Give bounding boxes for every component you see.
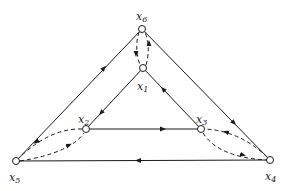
edge-x6-x4 bbox=[142, 29, 270, 160]
edge-x4-x3-dashed bbox=[205, 129, 267, 157]
node-x4 bbox=[267, 157, 274, 164]
edge-x3-x1 bbox=[143, 68, 201, 129]
node-x6 bbox=[139, 26, 146, 33]
edge-x4-x5 bbox=[16, 160, 270, 161]
label-x3: x3 bbox=[196, 113, 207, 127]
label-x2: x2 bbox=[78, 113, 89, 127]
edge-x1-x6-dashed bbox=[145, 32, 149, 65]
label-x6: x6 bbox=[136, 10, 147, 24]
edge-x6-x1-dashed bbox=[136, 32, 140, 65]
graph-diagram: x1 x2 x3 x4 x5 x6 bbox=[0, 0, 289, 191]
label-x1: x1 bbox=[137, 80, 148, 94]
node-x5 bbox=[13, 158, 20, 165]
label-x5: x5 bbox=[9, 171, 20, 185]
node-x1 bbox=[140, 65, 147, 72]
edge-x5-x6 bbox=[16, 29, 142, 161]
edge-x1-x2 bbox=[86, 68, 143, 129]
label-x4: x4 bbox=[265, 170, 276, 184]
